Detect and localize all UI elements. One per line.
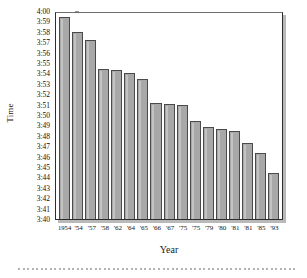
- x-axis-tick-label: '85: [256, 222, 267, 236]
- bar: [98, 69, 109, 219]
- decorative-dot: [275, 268, 277, 270]
- decorative-dot: [257, 268, 259, 270]
- decorative-dot: [90, 268, 92, 270]
- decorative-dot: [208, 268, 210, 270]
- decorative-dot: [194, 268, 196, 270]
- decorative-dot: [284, 268, 286, 270]
- decorative-dot: [203, 268, 205, 270]
- decorative-dot: [239, 268, 241, 270]
- y-axis-tick-label: 3:53: [37, 81, 50, 89]
- y-axis-tick-labels: 4:003:593:583:573:563:553:543:533:523:51…: [24, 12, 50, 220]
- y-axis-tick-label: 3:49: [37, 123, 50, 131]
- decorative-dot: [18, 268, 20, 270]
- x-axis-tick-label: '62: [112, 222, 123, 236]
- decorative-dot: [212, 268, 214, 270]
- y-axis-tick-label: 3:48: [37, 133, 50, 141]
- decorative-dot: [113, 268, 115, 270]
- decorative-dot: [167, 268, 169, 270]
- decorative-dot: [50, 268, 52, 270]
- decorative-dot: [149, 268, 151, 270]
- decorative-dot: [176, 268, 178, 270]
- decorative-dot: [199, 268, 201, 270]
- decorative-dot: [27, 268, 29, 270]
- bar: [177, 105, 188, 219]
- x-axis-tick-label: '65: [138, 222, 149, 236]
- decorative-dot: [131, 268, 133, 270]
- decorative-dot: [63, 268, 65, 270]
- decorative-dot: [59, 268, 61, 270]
- decorative-dot: [108, 268, 110, 270]
- decorative-dot: [221, 268, 223, 270]
- decorative-dot: [23, 268, 25, 270]
- x-axis-tick-label: '67: [165, 222, 176, 236]
- x-axis-tick-label: '57: [86, 222, 97, 236]
- decorative-dot: [41, 268, 43, 270]
- y-axis-tick-label: 3:51: [37, 102, 50, 110]
- decorative-dot: [271, 268, 273, 270]
- decorative-dot: [244, 268, 246, 270]
- decorative-dot: [163, 268, 165, 270]
- bar: [111, 70, 122, 219]
- x-axis-tick-label: '79: [204, 222, 215, 236]
- bar: [268, 173, 279, 219]
- y-axis-tick-label: 3:43: [37, 185, 50, 193]
- decorative-dot: [140, 268, 142, 270]
- y-axis-tick-label: 3:55: [37, 60, 50, 68]
- decorative-dot: [172, 268, 174, 270]
- decorative-dot: [77, 268, 79, 270]
- decorative-dot: [144, 268, 146, 270]
- decorative-dot: [230, 268, 232, 270]
- decorative-dot: [104, 268, 106, 270]
- y-axis-tick-label: 3:54: [37, 71, 50, 79]
- y-axis-title: Time: [5, 87, 15, 139]
- bar: [59, 17, 70, 219]
- decorative-dot: [86, 268, 88, 270]
- x-axis-tick-label: '66: [151, 222, 162, 236]
- y-axis-tick-label: 3:46: [37, 154, 50, 162]
- y-axis-tick-label: 3:41: [37, 206, 50, 214]
- decorative-dot: [181, 268, 183, 270]
- y-axis-tick-label: 3:57: [37, 39, 50, 47]
- decorative-dot: [248, 268, 250, 270]
- y-axis-tick-label: 3:44: [37, 175, 50, 183]
- y-axis-tick-label: 3:52: [37, 91, 50, 99]
- y-axis-tick-label: 4:00: [37, 8, 50, 16]
- decorative-dot: [185, 268, 187, 270]
- y-axis-tick-label: 3:56: [37, 50, 50, 58]
- x-axis-tick-label: '75: [191, 222, 202, 236]
- y-axis-tick-label: 3:40: [37, 216, 50, 224]
- bar: [137, 79, 148, 219]
- y-axis-tick-label: 3:58: [37, 29, 50, 37]
- x-axis-tick-label: '81: [243, 222, 254, 236]
- x-axis-tick-label: 1954: [58, 222, 71, 236]
- decorative-dot: [217, 268, 219, 270]
- decorative-dot: [126, 268, 128, 270]
- plot-area: [55, 12, 283, 220]
- bar-series: [56, 13, 282, 219]
- decorative-dot: [280, 268, 282, 270]
- decorative-dot: [158, 268, 160, 270]
- bar-chart-figure: Time 4:003:593:583:573:563:553:543:533:5…: [0, 0, 307, 278]
- bar: [255, 153, 266, 219]
- bar: [190, 121, 201, 219]
- y-axis-tick-label: 3:50: [37, 112, 50, 120]
- x-axis-tick-label: '81: [230, 222, 241, 236]
- y-axis-tick-label: 3:47: [37, 143, 50, 151]
- decorative-dot: [45, 268, 47, 270]
- decorative-dot: [36, 268, 38, 270]
- bar: [203, 127, 214, 219]
- decorative-dot: [54, 268, 56, 270]
- x-axis-tick-labels: 1954'54'57'58'62'64'65'66'67'75'75'79'80…: [55, 222, 283, 236]
- decorative-dotted-rule: [18, 266, 296, 272]
- decorative-dot: [289, 268, 291, 270]
- decorative-dot: [72, 268, 74, 270]
- x-axis-tick-label: '58: [99, 222, 110, 236]
- decorative-dot: [99, 268, 101, 270]
- decorative-dot: [262, 268, 264, 270]
- y-axis-tick-label: 3:42: [37, 195, 50, 203]
- decorative-dot: [135, 268, 137, 270]
- y-axis-tick-label: 3:59: [37, 19, 50, 27]
- decorative-dot: [266, 268, 268, 270]
- x-axis-tick-label: '54: [73, 222, 84, 236]
- x-axis-tick-label: '93: [269, 222, 280, 236]
